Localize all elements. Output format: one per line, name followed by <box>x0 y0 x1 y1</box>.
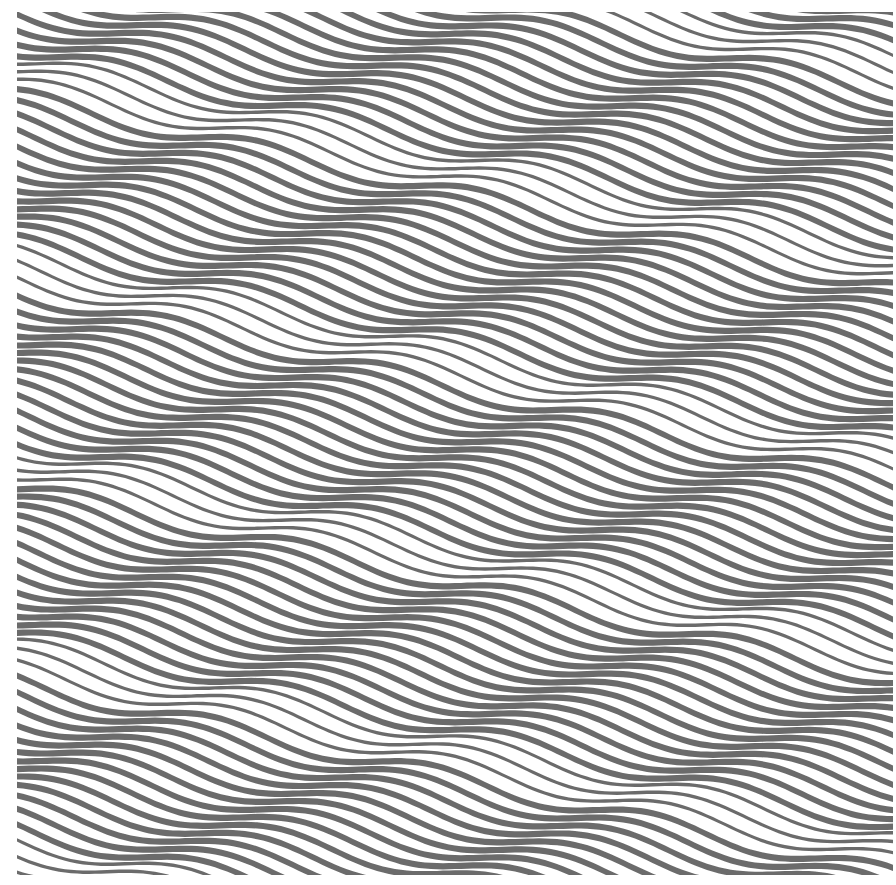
artwork-canvas: Op-art wavy stripe pattern <box>17 12 893 875</box>
wave-stripes <box>17 12 893 875</box>
wavy-stripes-image <box>17 12 893 875</box>
